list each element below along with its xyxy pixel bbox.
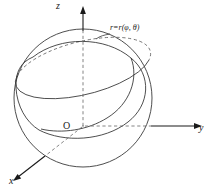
surface-curve-front <box>33 41 146 138</box>
surface-equation-label: r=r(φ, θ) <box>110 24 139 32</box>
x-axis-line <box>18 156 45 177</box>
axis-label-y: y <box>199 123 203 133</box>
z-axis-arrowhead <box>80 6 86 14</box>
annotation-leader-line <box>96 34 110 39</box>
equator-front-arc <box>15 60 149 99</box>
axis-label-x: x <box>9 176 13 186</box>
surface-curve-lower <box>16 57 39 130</box>
figure-container: z y x O r=r(φ, θ) <box>0 0 209 190</box>
axis-label-z: z <box>56 1 60 11</box>
equator-back-arc <box>17 37 151 76</box>
origin-label: O <box>63 121 70 131</box>
diagram-canvas <box>0 0 209 190</box>
